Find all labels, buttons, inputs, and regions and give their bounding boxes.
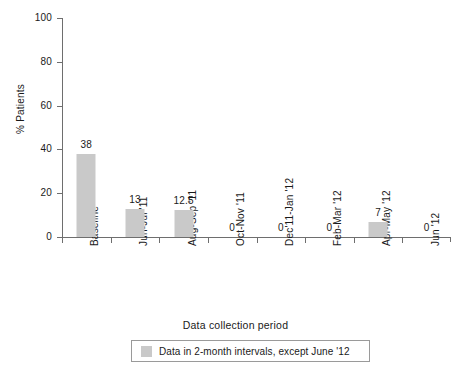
y-axis-tick-label: 100 — [12, 13, 52, 23]
bar-group: 0 — [305, 18, 354, 237]
bar — [369, 222, 388, 237]
y-axis-tick-label: 0 — [12, 232, 52, 242]
bar-value-label: 12.5 — [173, 196, 193, 206]
x-axis-tick — [62, 238, 63, 243]
legend-label: Data in 2-month intervals, except June '… — [159, 346, 350, 357]
bar-value-label: 0 — [229, 223, 235, 233]
bar-value-label: 0 — [278, 223, 284, 233]
bar-group: 0 — [208, 18, 257, 237]
bar-value-label: 7 — [375, 208, 381, 218]
y-axis-tick-label: 40 — [12, 144, 52, 154]
bar — [77, 154, 96, 237]
x-axis-tick — [257, 238, 258, 243]
x-axis-tick — [402, 238, 403, 243]
x-axis-tick — [354, 238, 355, 243]
bar-value-label: 13 — [129, 195, 141, 205]
bar-group: 12.5 — [159, 18, 208, 237]
bar-group: 13 — [111, 18, 160, 237]
bar-group: 7 — [354, 18, 403, 237]
legend-swatch-icon — [141, 346, 152, 357]
bar-value-label: 0 — [424, 223, 430, 233]
y-axis-tick-label: 60 — [12, 101, 52, 111]
x-axis-tick — [208, 238, 209, 243]
x-axis-tick — [111, 238, 112, 243]
x-axis-tick — [159, 238, 160, 243]
bar — [174, 210, 193, 237]
chart-legend: Data in 2-month intervals, except June '… — [131, 340, 370, 362]
bar-group: 38 — [62, 18, 111, 237]
x-axis-tick — [305, 238, 306, 243]
bar-value-label: 38 — [81, 140, 93, 150]
chart-figure: % Patients 020406080100 BaselineJun-Jul … — [0, 0, 471, 381]
bar — [125, 209, 144, 237]
y-axis-tick-label: 20 — [12, 188, 52, 198]
bar-group: 0 — [257, 18, 306, 237]
x-axis-title: Data collection period — [0, 320, 471, 331]
bar-value-label: 0 — [327, 223, 333, 233]
y-axis-tick-label: 80 — [12, 57, 52, 67]
bar-group: 0 — [402, 18, 451, 237]
x-axis-end-tick — [450, 237, 451, 242]
bar-series: 381312.500070 — [62, 18, 451, 237]
